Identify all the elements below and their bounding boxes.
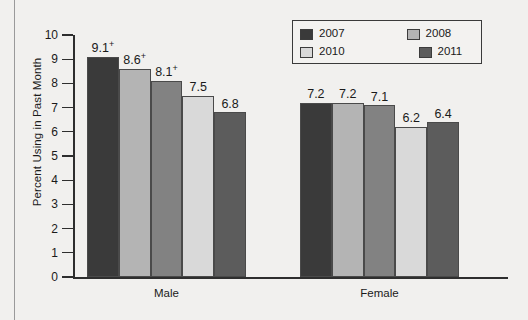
legend-row: 20102011 [300,43,475,61]
y-axis-tick [62,180,73,181]
x-axis-group-label: Male [154,287,179,299]
significance-marker: + [141,51,146,61]
bar: 7.5 [182,96,214,278]
plot-area: 012345678910 9.1+8.6+8.1+7.56.87.27.27.1… [73,35,508,277]
y-axis-tick-label: 7 [51,102,58,114]
bar-value-label: 8.6+ [123,54,146,67]
y-axis-tick [62,83,73,84]
bar: 6.8 [214,112,246,277]
legend-label: 2008 [426,28,452,40]
x-axis-group-label: Female [360,287,398,299]
y-axis-line [73,35,75,277]
y-axis-tick-label: 3 [51,198,58,210]
significance-marker: + [173,63,178,73]
bar-chart: Percent Using in Past Month 012345678910… [0,0,528,320]
bar: 6.4 [427,122,459,277]
y-axis-tick [62,228,73,229]
bar-value-label: 7.2 [339,88,356,101]
legend-swatch [300,47,313,58]
legend-swatch [300,29,313,40]
significance-marker: + [109,39,114,49]
legend-swatch [419,47,432,58]
y-axis-tick-label: 4 [51,174,58,186]
legend: 20072008200920102011 [292,20,482,64]
y-axis-tick [62,276,73,277]
legend-label: 2010 [319,46,345,58]
legend-item-2010: 2010 [300,46,357,58]
bar: 7.1 [364,105,396,277]
y-axis-tick [62,34,73,35]
y-axis-tick [62,155,73,156]
bar-value-label: 6.4 [434,108,451,121]
legend-swatch [407,29,420,40]
bar: 7.2 [332,103,364,277]
legend-label: 2011 [438,46,463,58]
bar-value-label: 9.1+ [92,42,115,55]
y-axis-tick-label: 0 [51,271,58,283]
y-axis-tick-label: 9 [51,53,58,65]
y-axis-tick [62,131,73,132]
y-axis-tick-label: 10 [45,29,58,41]
legend-label: 2007 [319,28,345,40]
y-axis-tick-label: 8 [51,77,58,89]
bar-value-label: 7.1 [371,91,388,104]
y-axis-tick-label: 6 [51,126,58,138]
bar: 8.6+ [119,69,151,277]
bar-value-label: 8.1+ [155,66,178,79]
bar-value-label: 7.2 [307,88,324,101]
y-axis-tick [62,204,73,205]
bar-value-label: 6.2 [403,112,420,125]
bar-value-label: 7.5 [190,81,207,94]
bar-value-label: 6.8 [221,98,238,111]
legend-item-2007: 2007 [300,28,345,40]
y-axis-tick-label: 5 [51,150,58,162]
y-axis-tick [62,252,73,253]
legend-row: 200720082009 [300,25,475,43]
y-axis-title: Percent Using in Past Month [31,32,43,232]
y-axis-tick-label: 1 [51,247,58,259]
bar: 6.2 [395,127,427,277]
y-axis-tick [62,59,73,60]
bar: 9.1+ [87,57,119,277]
bar: 7.2 [300,103,332,277]
y-axis-tick [62,107,73,108]
x-axis-line [73,277,508,279]
legend-item-2011: 2011 [419,46,476,58]
bar: 8.1+ [151,81,183,277]
legend-item-2008: 2008 [407,28,452,40]
y-axis-tick-label: 2 [51,223,58,235]
